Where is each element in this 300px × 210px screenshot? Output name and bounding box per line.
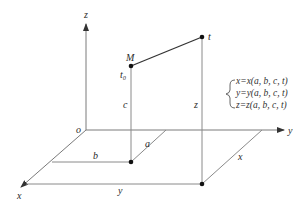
M-label: M — [125, 52, 135, 63]
a-label: a — [145, 138, 150, 149]
equation-x: x=x(a, b, c, t) — [235, 76, 288, 87]
t-label: t — [208, 31, 211, 42]
x-dim-label: x — [237, 151, 243, 162]
equation-brace — [226, 80, 235, 108]
trajectory-line — [131, 37, 202, 66]
y-dim-label: y — [117, 185, 123, 196]
origin-label: o — [76, 124, 81, 135]
equation-z: z=z(a, b, c, t) — [235, 100, 287, 111]
z-axis-label: z — [83, 9, 88, 20]
x-axis — [21, 130, 86, 187]
z-dim-label: z — [193, 99, 198, 110]
point-t-ground — [200, 182, 205, 187]
point-M-ground — [129, 160, 134, 165]
coordinate-diagram: z y x o M t₀ t c z b a x y x=x(a, b, c, … — [0, 0, 300, 210]
y-axis-label: y — [287, 125, 293, 136]
equation-y: y=y(a, b, c, t) — [235, 88, 288, 99]
point-M — [129, 64, 134, 69]
x-projection-line — [202, 130, 262, 184]
point-t — [200, 35, 205, 40]
b-label: b — [93, 150, 98, 161]
x-axis-label: x — [16, 190, 22, 201]
c-label: c — [123, 99, 128, 110]
t0-label: t₀ — [120, 69, 127, 80]
